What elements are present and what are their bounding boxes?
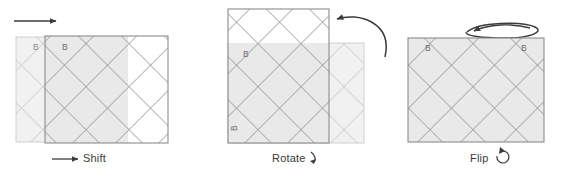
rotate-corner-label-b-bottom: B — [229, 125, 239, 131]
rotate-caption-glyph-icon — [310, 152, 316, 164]
panel-flip: B B — [401, 23, 551, 149]
caption-flip: Flip — [470, 152, 489, 164]
caption-shift: Shift — [83, 152, 106, 164]
flip-corner-label-b-right: B — [521, 43, 527, 53]
rotate-corner-label-b-top: B — [243, 49, 249, 59]
ghost-corner-label-b: B — [33, 42, 39, 52]
flip-arrow-icon — [466, 23, 538, 38]
rotate-main-tile: B B — [221, 2, 337, 151]
caption-rotate: Rotate — [272, 152, 306, 164]
flip-corner-label-b-left: B — [425, 43, 431, 53]
shift-corner-label-b: B — [62, 42, 68, 52]
flip-caption-glyph-icon — [497, 147, 509, 163]
panel-rotate: B B — [221, 2, 386, 151]
panel-shift: B B — [10, 21, 176, 159]
flip-main-tile: B B — [401, 31, 551, 149]
shift-main-tile: B — [38, 29, 176, 151]
